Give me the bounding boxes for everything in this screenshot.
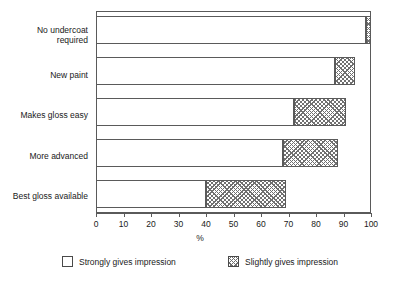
bar-segment [96,98,294,126]
legend-item-slightly-gives-impression[interactable]: Slightly gives impression [228,256,338,267]
y-axis-label-new-paint: New paint [0,70,88,80]
x-axis-tick-label: 0 [81,219,111,229]
x-axis-tick-label: 70 [274,219,304,229]
bar-segment [96,16,366,44]
bar-segment [96,57,335,85]
x-axis-tick [234,213,235,217]
bar-row-new-paint [96,57,371,85]
legend-label-slightly: Slightly gives impression [245,257,338,267]
x-axis-tick-label: 50 [219,219,249,229]
x-axis-tick [316,213,317,217]
legend-label-strongly: Strongly gives impression [79,257,176,267]
horizontal-stacked-bar-chart: No undercoat required New paint Makes gl… [0,0,400,285]
legend-item-strongly-gives-impression[interactable]: Strongly gives impression [62,256,176,267]
bar-segment [96,180,206,208]
x-axis-tick-label: 30 [164,219,194,229]
x-axis-tick [261,213,262,217]
x-axis-tick-label: 40 [191,219,221,229]
x-axis-tick [96,213,97,217]
empty-box-icon [62,256,73,267]
bar-row-no-undercoat-required [96,16,371,44]
legend: Strongly gives impression Slightly gives… [0,256,400,276]
x-axis-tick [179,213,180,217]
x-axis-tick [289,213,290,217]
bar-row-makes-gloss-easy [96,98,371,126]
x-axis-tick [151,213,152,217]
x-axis-tick-label: 20 [136,219,166,229]
bar-segment [335,57,354,85]
bar-segment [96,139,283,167]
y-axis-label-makes-gloss-easy: Makes gloss easy [0,110,88,120]
x-axis-title: % [0,233,400,243]
bar-row-more-advanced [96,139,371,167]
x-axis-tick-label: 100 [356,219,386,229]
y-axis-label-more-advanced: More advanced [0,151,88,161]
x-axis-tick [124,213,125,217]
x-axis-tick [371,213,372,217]
bar-segment [366,16,372,44]
y-axis-label-best-gloss-available: Best gloss available [0,191,88,201]
x-axis-tick-label: 60 [246,219,276,229]
bar-segment [283,139,338,167]
bar-segment [294,98,346,126]
x-axis-tick-label: 80 [301,219,331,229]
y-axis-label-no-undercoat-required: No undercoat required [0,25,88,45]
x-axis-tick-label: 90 [329,219,359,229]
x-axis-tick [206,213,207,217]
crosshatch-box-icon [228,256,239,267]
bar-row-best-gloss-available [96,180,371,208]
bar-segment [206,180,286,208]
x-axis-tick [344,213,345,217]
x-axis-tick-label: 10 [109,219,139,229]
